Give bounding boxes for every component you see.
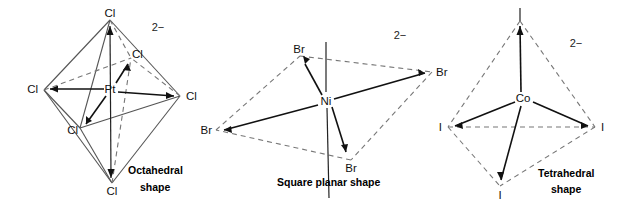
octahedron-vertical-axis [110, 26, 111, 178]
atom-label-cl-left: Cl [27, 83, 38, 95]
atom-label-cl-front: Cl [67, 124, 78, 136]
edge-front-left [216, 130, 351, 160]
arrowhead-right-br [418, 69, 425, 76]
edge-left-back [44, 58, 131, 90]
atom-label-cl-back: Cl [132, 48, 143, 60]
atom-label-i-left: I [439, 121, 442, 133]
octahedron-outer-edges [44, 20, 180, 183]
atom-label-br-left: Br [201, 124, 213, 136]
arrowhead-left-i [455, 122, 463, 129]
edge-apex-right [520, 21, 595, 127]
bond-co-i-left [455, 102, 515, 126]
edge-left-front [448, 127, 500, 186]
atom-label-i-front: I [498, 189, 501, 201]
panel-tetrahedral: I I I I Co 2− Tetrahedral shape [439, 7, 604, 201]
panel-square-planar: Br Br Br Br Ni 2− Square planar shape [201, 29, 448, 198]
octahedron-bonds [50, 26, 174, 178]
arrowhead-front-br [341, 144, 348, 152]
edge-bottom-front [80, 128, 112, 183]
coordination-geometry-figure: Cl Cl Cl Cl Cl Cl Pt 2− Octahedral shape [0, 0, 627, 216]
arrowhead-right-i [581, 122, 588, 129]
edge-backleft-right [300, 56, 432, 72]
square-planar-edges [216, 56, 432, 160]
atom-label-br-front: Br [345, 162, 357, 174]
caption-tetrahedral-line2: shape [551, 183, 582, 195]
edge-right-front [351, 72, 432, 160]
atom-label-cl-right: Cl [186, 90, 197, 102]
caption-octahedral-line2: shape [140, 181, 171, 193]
atom-label-br-backleft: Br [293, 43, 305, 55]
edge-right-back [131, 58, 180, 96]
atom-label-br-right: Br [436, 66, 448, 78]
caption-square-planar: Square planar shape [277, 176, 380, 188]
atom-label-i-right: I [601, 121, 604, 133]
charge-label-tetrahedral: 2− [570, 37, 583, 49]
edge-top-right [110, 20, 180, 96]
atom-label-cl-top: Cl [105, 7, 116, 19]
charge-label-octahedral: 2− [152, 21, 165, 33]
charge-label-square-planar: 2− [394, 29, 407, 41]
figure-canvas: Cl Cl Cl Cl Cl Cl Pt 2− Octahedral shape [0, 0, 627, 216]
atom-label-pt-center: Pt [105, 83, 117, 95]
atom-label-ni-center: Ni [321, 95, 332, 107]
bond-ni-br-left [224, 105, 318, 130]
atom-label-cl-bottom: Cl [107, 185, 118, 197]
edge-left-front [44, 90, 80, 128]
edge-left-bottom [44, 90, 112, 183]
panel-octahedral: Cl Cl Cl Cl Cl Cl Pt 2− Octahedral shape [27, 7, 197, 197]
arrowhead-apex-i [517, 26, 524, 35]
bond-co-i-front [501, 106, 521, 180]
caption-octahedral-line1: Octahedral [128, 164, 183, 176]
bond-pt-cl-right [118, 92, 174, 96]
bond-co-i-apex [520, 26, 521, 92]
bond-ni-br-backleft [305, 64, 322, 95]
atom-label-co-center: Co [516, 92, 531, 104]
caption-tetrahedral-line1: Tetrahedral [538, 167, 594, 179]
edge-left-backleft [216, 56, 300, 130]
arrowhead-front-i [497, 172, 504, 180]
